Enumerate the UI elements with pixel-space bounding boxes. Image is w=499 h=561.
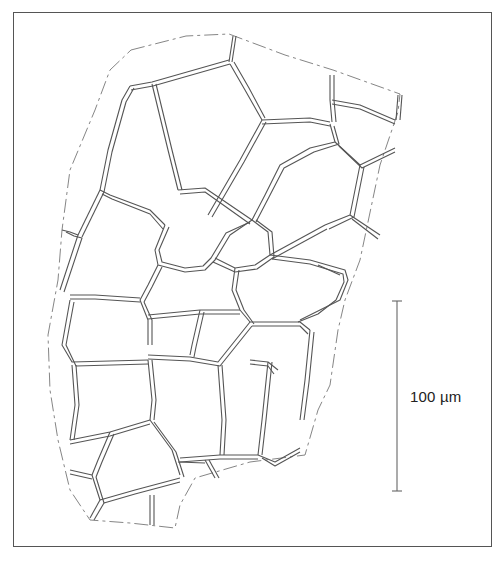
- scale-bar: [392, 301, 402, 491]
- cell-walls: [60, 36, 402, 525]
- scale-bar-label: 100 µm: [410, 388, 462, 405]
- cell-drawing: [0, 0, 499, 561]
